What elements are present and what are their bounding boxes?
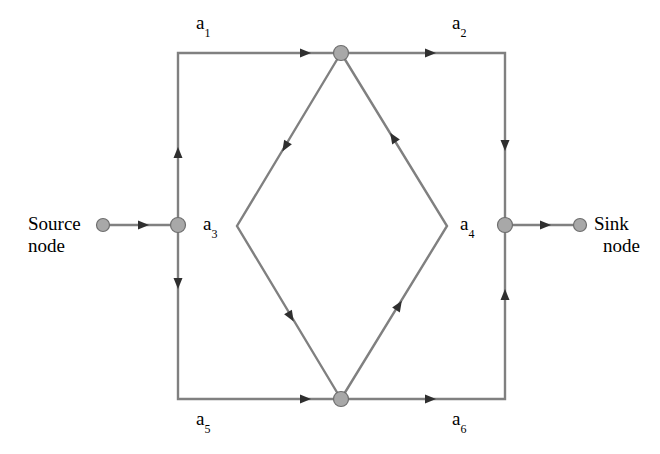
arrowhead-a2-vertical (501, 140, 510, 151)
node-right[interactable] (498, 218, 513, 233)
arrowhead-a1-horizontal (300, 49, 311, 58)
arrowhead-a5-horizontal (300, 395, 311, 404)
arc-a3-subscript: 3 (211, 227, 217, 241)
source-node-label: Source node (28, 213, 81, 257)
edge-a1 (178, 53, 341, 225)
node-left[interactable] (171, 218, 186, 233)
node-top[interactable] (334, 46, 349, 61)
arc-label-a4: a4 (460, 213, 474, 239)
node-source-terminal[interactable] (97, 219, 110, 232)
arrowhead-a6-vertical (501, 289, 510, 300)
arc-a6-subscript: 6 (460, 422, 466, 436)
node-bottom[interactable] (334, 392, 349, 407)
source-label-line2: node (28, 235, 81, 257)
arc-a2-subscript: 2 (460, 26, 466, 40)
edge-a5 (178, 225, 341, 399)
arrowhead-a2-horizontal (425, 49, 436, 58)
arc-a1-subscript: 1 (204, 26, 210, 40)
graph-canvas (0, 0, 660, 454)
flow-network-diagram: Source node Sink node a1 a2 a3 a4 a5 a6 (0, 0, 660, 454)
arrowhead-a6-horizontal (425, 395, 436, 404)
nodes-group (97, 46, 587, 407)
edge-a6 (341, 225, 505, 399)
node-sink-terminal[interactable] (574, 219, 587, 232)
arrowhead-a1-vertical (174, 147, 183, 158)
arc-a5-subscript: 5 (204, 422, 210, 436)
arc-label-a1: a1 (196, 12, 210, 38)
sink-label-line2: node (594, 235, 640, 257)
arc-label-a2: a2 (452, 12, 466, 38)
sink-label-line1: Sink (594, 213, 629, 234)
arc-a4-subscript: 4 (468, 227, 474, 241)
arrowheads-group (138, 49, 551, 404)
source-label-line1: Source (28, 213, 81, 234)
arrowhead-a5-vertical (174, 278, 183, 289)
edge-a4 (341, 53, 447, 399)
edge-a2 (341, 53, 505, 225)
sink-node-label: Sink node (594, 213, 640, 257)
arrowhead-sink-stub (540, 221, 551, 230)
arc-label-a6: a6 (452, 408, 466, 434)
edge-a3 (237, 53, 341, 399)
arc-label-a5: a5 (196, 408, 210, 434)
arc-label-a3: a3 (203, 213, 217, 239)
arrowhead-source-stub (138, 221, 149, 230)
